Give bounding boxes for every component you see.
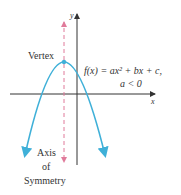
- condition-label: a < 0: [120, 78, 142, 89]
- x-axis-label: x: [150, 97, 155, 106]
- y-axis-label: y: [69, 11, 74, 20]
- vertex-label: Vertex: [28, 50, 54, 61]
- axis-label-line2: of: [42, 161, 51, 172]
- equation-label: f(x) = ax² + bx + c,: [84, 65, 162, 77]
- axis-label-line3: Symmetry: [24, 175, 66, 186]
- axis-label-line1: Axis: [37, 147, 56, 158]
- parabola-diagram: y x Vertex f(x) = ax² + bx + c, a < 0 Ax…: [0, 0, 181, 195]
- parabola-curve: [25, 62, 64, 155]
- vertex-point: [62, 60, 66, 64]
